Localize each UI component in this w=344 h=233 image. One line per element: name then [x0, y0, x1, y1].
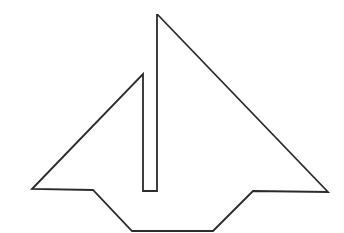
sailboat-outline-icon	[0, 0, 344, 233]
sailboat-outline-shape	[32, 15, 328, 231]
sailboat-figure	[0, 0, 344, 233]
